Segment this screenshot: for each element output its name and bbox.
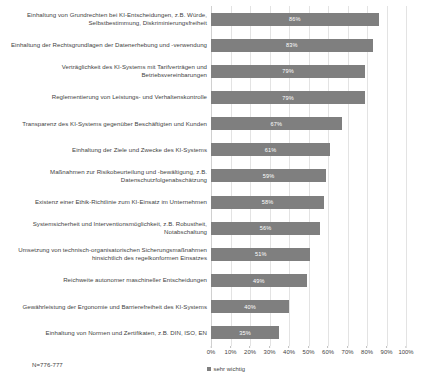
x-tick: 40% xyxy=(283,346,295,355)
bar-row: Einhaltung von Normen und Zertifikaten, … xyxy=(211,320,406,346)
category-label: Maßnahmen zur Risikobeurteilung und -bew… xyxy=(2,168,207,184)
x-tick: 10% xyxy=(225,346,237,355)
bar-value-label: 79% xyxy=(282,68,294,74)
x-tick-label: 90% xyxy=(381,349,393,355)
bar-row: Einhaltung von Grundrechten bei KI-Entsc… xyxy=(211,6,406,32)
bar: 49% xyxy=(211,274,307,287)
bar: 51% xyxy=(211,248,310,261)
category-label: Einhaltung der Ziele und Zwecke des KI-S… xyxy=(2,146,207,154)
bar-row: Maßnahmen zur Risikobeurteilung und -bew… xyxy=(211,163,406,189)
x-tick-mark xyxy=(366,346,367,348)
bar-chart: Einhaltung von Grundrechten bei KI-Entsc… xyxy=(0,0,422,383)
x-tick-mark xyxy=(210,346,211,348)
x-tick-label: 40% xyxy=(283,349,295,355)
bar-value-label: 59% xyxy=(263,173,275,179)
legend-label: sehr wichtig xyxy=(213,366,245,372)
x-tick-label: 60% xyxy=(322,349,334,355)
x-tick-mark xyxy=(269,346,270,348)
bar-value-label: 40% xyxy=(244,304,256,310)
bar-row: Verträglichkeit des KI-Systems mit Tarif… xyxy=(211,58,406,84)
x-tick-mark xyxy=(347,346,348,348)
bar: 35% xyxy=(211,326,279,339)
bar-row: Umsetzung von technisch-organisatorische… xyxy=(211,241,406,267)
x-tick: 20% xyxy=(244,346,256,355)
x-tick: 50% xyxy=(303,346,315,355)
bar-row: Existenz einer Ethik-Richtlinie zum KI-E… xyxy=(211,189,406,215)
x-tick-label: 0% xyxy=(207,349,216,355)
category-label: Systemsicherheit und Interventionsmöglic… xyxy=(2,220,207,236)
x-tick: 80% xyxy=(361,346,373,355)
x-tick-mark xyxy=(249,346,250,348)
category-label: Existenz einer Ethik-Richtlinie zum KI-E… xyxy=(2,198,207,206)
legend: sehr wichtig xyxy=(0,366,422,372)
x-tick-mark xyxy=(405,346,406,348)
bar-value-label: 51% xyxy=(255,251,267,257)
x-tick-mark xyxy=(288,346,289,348)
bar: 61% xyxy=(211,143,330,156)
x-tick-mark xyxy=(386,346,387,348)
bar-rows: Einhaltung von Grundrechten bei KI-Entsc… xyxy=(211,6,406,346)
category-label: Umsetzung von technisch-organisatorische… xyxy=(2,246,207,262)
x-tick: 90% xyxy=(381,346,393,355)
bar: 59% xyxy=(211,169,326,182)
category-label: Einhaltung von Grundrechten bei KI-Entsc… xyxy=(2,11,207,27)
x-tick-label: 50% xyxy=(303,349,315,355)
bar: 79% xyxy=(211,65,365,78)
bar-row: Systemsicherheit und Interventionsmöglic… xyxy=(211,215,406,241)
x-tick-label: 100% xyxy=(398,349,413,355)
bar: 83% xyxy=(211,39,373,52)
bar-row: Reichweite autonomer maschineller Entsch… xyxy=(211,268,406,294)
bar-value-label: 56% xyxy=(260,225,272,231)
bar: 67% xyxy=(211,117,342,130)
bar-row: Reglementierung von Leistungs- und Verha… xyxy=(211,84,406,110)
x-tick: 30% xyxy=(264,346,276,355)
x-tick-mark xyxy=(230,346,231,348)
legend-swatch-icon xyxy=(207,367,211,371)
category-label: Reglementierung von Leistungs- und Verha… xyxy=(2,93,207,101)
category-label: Reichweite autonomer maschineller Entsch… xyxy=(2,276,207,284)
bar-value-label: 49% xyxy=(253,278,265,284)
bar: 86% xyxy=(211,13,379,26)
bar: 79% xyxy=(211,91,365,104)
x-tick-label: 30% xyxy=(264,349,276,355)
category-label: Einhaltung der Rechtsgrundlagen der Date… xyxy=(2,41,207,49)
x-tick-label: 70% xyxy=(342,349,354,355)
x-tick: 70% xyxy=(342,346,354,355)
bar-value-label: 79% xyxy=(282,95,294,101)
bar: 58% xyxy=(211,196,324,209)
bar-value-label: 61% xyxy=(265,147,277,153)
bar: 56% xyxy=(211,222,320,235)
bar-value-label: 35% xyxy=(239,330,251,336)
x-axis: 0%10%20%30%40%50%60%70%80%90%100% xyxy=(211,346,406,358)
x-tick-label: 20% xyxy=(244,349,256,355)
gridline xyxy=(406,6,407,346)
category-label: Transparenz des KI-Systems gegenüber Bes… xyxy=(2,120,207,128)
category-label: Gewährleistung der Ergonomie und Barrier… xyxy=(2,303,207,311)
x-tick-mark xyxy=(308,346,309,348)
x-tick: 60% xyxy=(322,346,334,355)
bar-value-label: 58% xyxy=(262,199,274,205)
legend-inner: sehr wichtig xyxy=(207,366,245,372)
x-tick-label: 10% xyxy=(225,349,237,355)
x-tick: 0% xyxy=(207,346,216,355)
plot-area: Einhaltung von Grundrechten bei KI-Entsc… xyxy=(211,6,406,346)
bar-value-label: 67% xyxy=(270,121,282,127)
bar-row: Gewährleistung der Ergonomie und Barrier… xyxy=(211,294,406,320)
category-label: Verträglichkeit des KI-Systems mit Tarif… xyxy=(2,63,207,79)
x-tick-mark xyxy=(327,346,328,348)
x-tick: 100% xyxy=(398,346,413,355)
category-label: Einhaltung von Normen und Zertifikaten, … xyxy=(2,329,207,337)
bar-row: Transparenz des KI-Systems gegenüber Bes… xyxy=(211,111,406,137)
bar-value-label: 86% xyxy=(289,16,301,22)
bar-row: Einhaltung der Rechtsgrundlagen der Date… xyxy=(211,32,406,58)
bar-row: Einhaltung der Ziele und Zwecke des KI-S… xyxy=(211,137,406,163)
bar-value-label: 83% xyxy=(286,42,298,48)
bar: 40% xyxy=(211,300,289,313)
x-tick-label: 80% xyxy=(361,349,373,355)
